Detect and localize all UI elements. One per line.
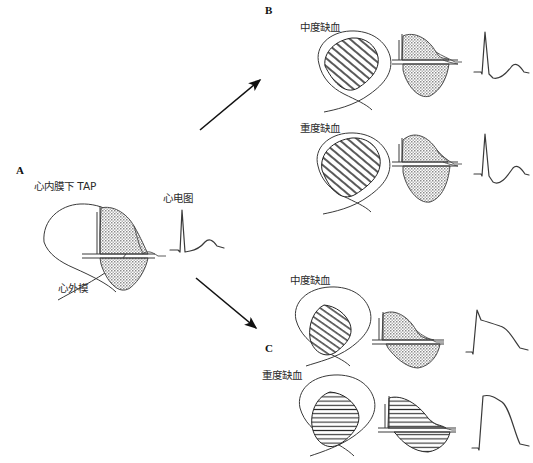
ecg-trace <box>474 134 529 183</box>
panel-c-severe-label: 重度缺血 <box>262 370 302 381</box>
panel-letter-c: C <box>265 343 273 354</box>
heart-cross-section-hatched <box>299 375 375 456</box>
figure-canvas: A 心内膜下 TAP 心外模 心电图 <box>0 0 533 463</box>
heart-cross-section-hatched <box>295 287 371 366</box>
arrow-to-panel-b <box>200 80 260 130</box>
panel-letter-b: B <box>265 5 272 16</box>
heart-cross-section-hatched <box>317 133 390 214</box>
figure-graphics <box>0 0 533 463</box>
panel-b-moderate-label: 中度缺血 <box>300 22 340 33</box>
ecg-trace <box>466 310 528 354</box>
heart-cross-section-hatched <box>318 31 391 112</box>
action-potential-waveform <box>392 34 462 97</box>
panel-a-ecg-trace <box>170 210 224 252</box>
panel-c-moderate-label: 中度缺血 <box>290 275 330 286</box>
ecg-trace <box>472 395 529 450</box>
panel-b-row-moderate <box>318 31 529 112</box>
ecg-trace <box>474 32 529 78</box>
action-potential-waveform <box>392 135 462 202</box>
panel-b-severe-label: 重度缺血 <box>300 123 340 134</box>
panel-c-row-moderate <box>295 287 528 368</box>
panel-b-row-severe <box>317 133 529 214</box>
action-potential-waveform <box>372 312 444 368</box>
action-potential-waveform <box>378 396 456 452</box>
panel-c-row-severe <box>299 375 529 456</box>
arrow-to-panel-c <box>196 278 256 328</box>
